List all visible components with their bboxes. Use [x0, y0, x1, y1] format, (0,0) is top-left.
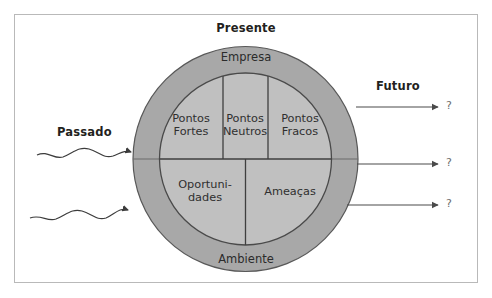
cell-oportunidades-line2: dades: [178, 192, 232, 205]
cell-oportunidades: Oportuni- dades: [178, 179, 232, 204]
past-wavy-arrow-top: [37, 148, 131, 157]
cell-pontos-neutros-line1: Pontos: [223, 113, 267, 126]
cell-pontos-fracos-line2: Fracos: [281, 126, 319, 139]
diagram-canvas: Presente Passado Futuro Empresa Ambiente…: [0, 0, 492, 298]
past-wavy-arrow-bottom: [30, 209, 128, 219]
future-question-mark-2: ?: [446, 157, 452, 169]
cell-ameacas: Ameaças: [264, 186, 316, 199]
past-label: Passado: [57, 126, 112, 139]
cell-pontos-fortes: Pontos Fortes: [172, 113, 210, 138]
present-label: Presente: [216, 22, 276, 35]
ring-label-ambiente: Ambiente: [218, 253, 274, 266]
cell-ameacas-line1: Ameaças: [264, 186, 316, 199]
cell-pontos-fortes-line2: Fortes: [172, 126, 210, 139]
future-label: Futuro: [376, 80, 420, 93]
cell-pontos-neutros-line2: Neutros: [223, 126, 267, 139]
cell-pontos-neutros: Pontos Neutros: [223, 113, 267, 138]
ring-label-empresa: Empresa: [221, 51, 271, 64]
cell-pontos-fortes-line1: Pontos: [172, 113, 210, 126]
cell-pontos-fracos-line1: Pontos: [281, 113, 319, 126]
cell-pontos-fracos: Pontos Fracos: [281, 113, 319, 138]
future-question-mark-3: ?: [446, 198, 452, 210]
future-question-mark-1: ?: [446, 100, 452, 112]
cell-oportunidades-line1: Oportuni-: [178, 179, 232, 192]
